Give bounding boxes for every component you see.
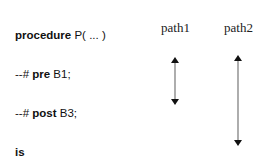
path-arrows <box>0 0 263 158</box>
